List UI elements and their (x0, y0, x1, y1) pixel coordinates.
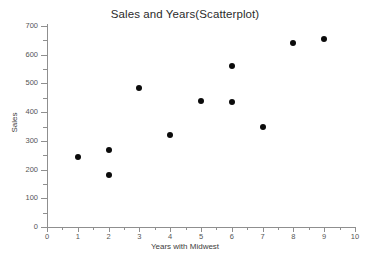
x-tick-minor (216, 227, 217, 230)
plot-area (47, 26, 355, 227)
x-tick-label: 3 (127, 233, 151, 241)
data-point (229, 99, 235, 105)
x-tick-minor (93, 227, 94, 230)
x-tick-label: 0 (35, 233, 59, 241)
x-tick-minor (309, 227, 310, 230)
x-tick-minor (155, 227, 156, 230)
y-tick-label: 100 (0, 194, 38, 202)
y-tick-label: 700 (0, 22, 38, 30)
data-point (75, 154, 81, 160)
x-tick-minor (124, 227, 125, 230)
x-tick-label: 10 (343, 233, 367, 241)
y-axis-title: Sales (10, 101, 19, 145)
x-tick-label: 8 (281, 233, 305, 241)
chart-title: Sales and Years(Scatterplot) (0, 8, 370, 20)
x-tick-minor (62, 227, 63, 230)
y-tick-label: 600 (0, 51, 38, 59)
x-tick-label: 5 (189, 233, 213, 241)
y-tick-label: 0 (0, 223, 38, 231)
x-tick-label: 1 (66, 233, 90, 241)
x-tick-minor (247, 227, 248, 230)
x-tick-minor (340, 227, 341, 230)
x-tick-label: 7 (251, 233, 275, 241)
data-point (321, 36, 327, 42)
data-point (106, 147, 112, 153)
data-point (167, 132, 173, 138)
data-point (198, 98, 204, 104)
y-tick-label: 400 (0, 108, 38, 116)
data-point (229, 63, 235, 69)
data-point (136, 85, 142, 91)
x-axis-title: Years with Midwest (0, 242, 370, 251)
x-tick-minor (186, 227, 187, 230)
data-point (106, 172, 112, 178)
x-tick-label: 2 (97, 233, 121, 241)
data-point (290, 40, 296, 46)
y-tick-label: 300 (0, 137, 38, 145)
scatterplot-chart: Sales and Years(Scatterplot) 01002003004… (0, 0, 370, 253)
data-point (260, 124, 266, 130)
y-tick-label: 500 (0, 79, 38, 87)
y-tick-label: 200 (0, 166, 38, 174)
x-tick-label: 6 (220, 233, 244, 241)
x-tick-label: 4 (158, 233, 182, 241)
x-tick-minor (278, 227, 279, 230)
x-tick-label: 9 (312, 233, 336, 241)
